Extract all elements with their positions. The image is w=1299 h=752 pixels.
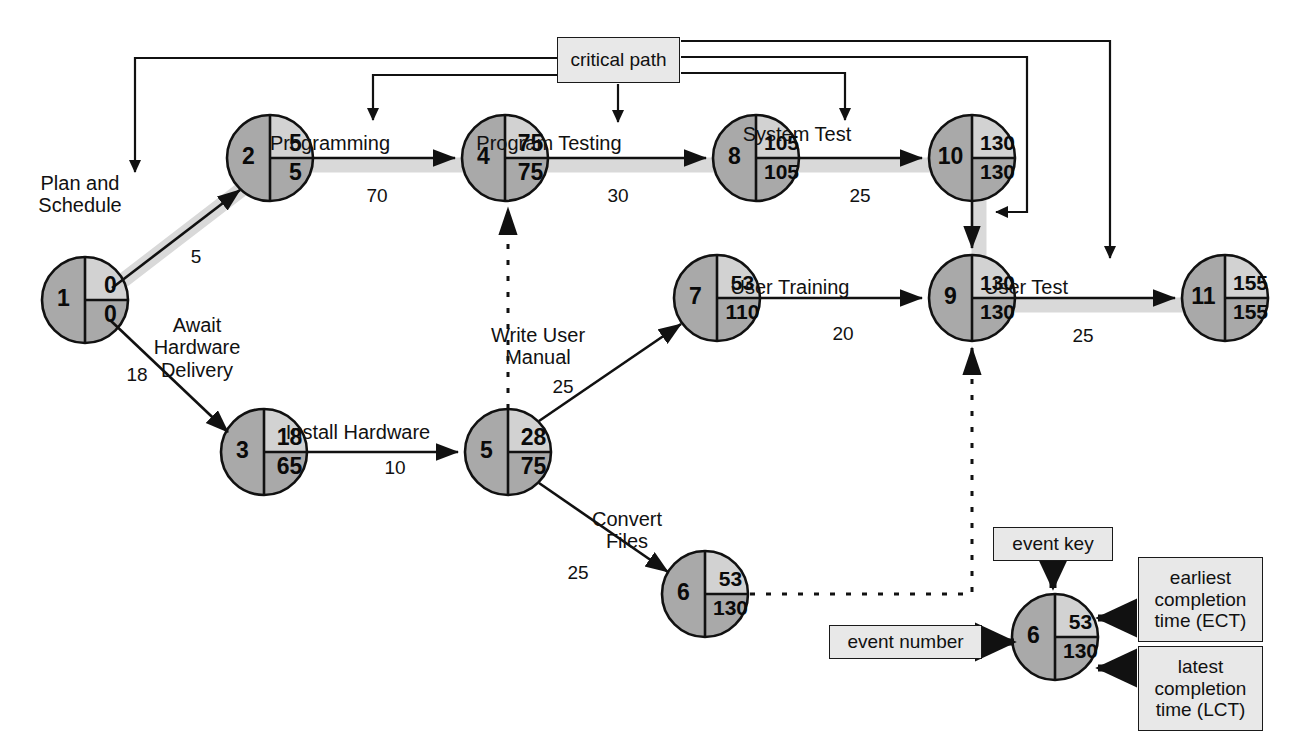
activity-name-2-4: Programming [230, 132, 430, 154]
node-ect-value: 130 [974, 131, 1021, 155]
activity-duration-8-10: 25 [830, 185, 890, 206]
activity-name-1-2: Plan and Schedule [0, 172, 180, 217]
dummy-6-9 [750, 348, 972, 594]
node-lct-value: 155 [1227, 300, 1274, 324]
activity-duration-7-9: 20 [813, 323, 873, 344]
node-number: 1 [42, 286, 85, 312]
activity-name-3-5: Install Hardware [258, 421, 458, 443]
node-lct-value: 130 [1057, 639, 1104, 663]
node-lct-value: 130 [974, 160, 1021, 184]
legend-event-number-label: event number [847, 631, 963, 653]
activity-duration-4-8: 30 [588, 185, 648, 206]
activity-duration-1-2: 5 [166, 246, 226, 267]
node-lct-value: 5 [272, 160, 319, 186]
node-number: 6 [1012, 623, 1055, 649]
node-lct-value: 75 [510, 454, 557, 480]
node-number: 11 [1182, 284, 1225, 310]
node-lct-value: 130 [974, 300, 1021, 324]
cp-leader-programming [373, 75, 557, 120]
node-ect-value: 0 [87, 273, 134, 299]
activity-duration-9-11: 25 [1053, 325, 1113, 346]
node-lct-value: 110 [719, 300, 766, 324]
activity-name-4-8: Program Testing [449, 132, 649, 154]
legend-event-number-box: event number [829, 625, 982, 659]
node-ect-value: 28 [510, 425, 557, 451]
cp-leader-systest [681, 73, 845, 120]
legend-lct-label: latest completion time (LCT) [1155, 656, 1247, 721]
legend-ect-box: earliest completion time (ECT) [1138, 557, 1263, 642]
node-number: 10 [929, 144, 972, 170]
node-lct-value: 130 [707, 596, 754, 620]
node-number: 8 [713, 144, 756, 170]
legend-event-key-label: event key [1012, 533, 1093, 555]
network-diagram-canvas: critical path event key event number ear… [0, 0, 1299, 752]
legend-event-key-box: event key [993, 527, 1113, 561]
node-ect-value: 53 [1057, 610, 1104, 634]
activity-name-8-10: System Test [697, 123, 897, 145]
critical-path-box[interactable]: critical path [557, 37, 680, 83]
node-ect-value: 155 [1227, 271, 1274, 295]
activity-duration-5-6: 25 [548, 562, 608, 583]
activity-duration-3-5: 10 [365, 457, 425, 478]
activity-name-7-9: User Training [690, 276, 890, 298]
node-number: 6 [662, 580, 705, 606]
node-number: 5 [465, 438, 508, 464]
activity-duration-5-7: 25 [533, 376, 593, 397]
node-lct-value: 65 [266, 454, 313, 480]
activity-name-9-11: User Test [926, 276, 1126, 298]
critical-path-label: critical path [570, 49, 666, 71]
activity-name-5-7: Write User Manual [438, 324, 638, 369]
node-lct-value: 75 [507, 160, 554, 186]
activity-duration-2-4: 70 [347, 185, 407, 206]
node-ect-value: 53 [707, 567, 754, 591]
node-lct-value: 105 [758, 160, 805, 184]
activity-name-5-6: Convert Files [527, 508, 727, 553]
activity-duration-1-3: 18 [107, 364, 167, 385]
legend-lct-box: latest completion time (LCT) [1138, 646, 1263, 731]
legend-ect-label: earliest completion time (ECT) [1155, 567, 1247, 632]
